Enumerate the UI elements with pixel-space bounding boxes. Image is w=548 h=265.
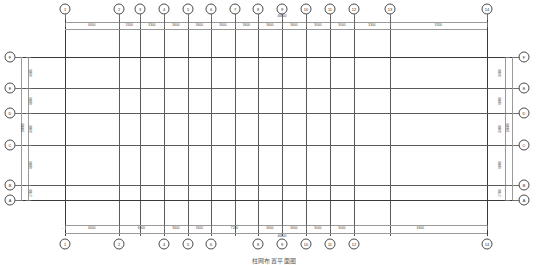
grid-bubble-bottom-10[interactable]: 10: [301, 239, 312, 250]
grid-bubble-right-F[interactable]: F: [519, 52, 530, 63]
grid-bubble-label: 10: [304, 242, 308, 246]
grid-line-vertical-4: [164, 14, 165, 236]
grid-bubble-label: 3: [139, 7, 141, 11]
grid-bubble-label: C: [9, 143, 12, 147]
dimension-top-overall: 46800: [277, 15, 286, 18]
grid-bubble-label: 10: [304, 7, 308, 11]
grid-bubble-top-12[interactable]: 12: [349, 4, 360, 15]
drawing-sheet: 1234567891011121314 124568910111214 FEDC…: [0, 0, 548, 265]
grid-bubble-label: 1: [64, 7, 66, 11]
dimension-tick: [390, 22, 391, 27]
dimension-tick: [258, 225, 259, 230]
grid-bubble-label: 5: [187, 7, 189, 11]
grid-bubble-label: 6: [210, 7, 212, 11]
grid-bubble-top-3[interactable]: 3: [135, 4, 146, 15]
grid-bubble-label: 11: [328, 242, 332, 246]
grid-bubble-top-9[interactable]: 9: [277, 4, 288, 15]
grid-bubble-left-A[interactable]: A: [5, 195, 16, 206]
grid-bubble-right-D[interactable]: D: [519, 108, 530, 119]
grid-bubble-right-C[interactable]: C: [519, 140, 530, 151]
dimension-tick: [487, 225, 488, 230]
grid-bubble-leader: [512, 113, 520, 114]
dimension-tick: [354, 22, 355, 27]
grid-bubble-leader: [164, 14, 165, 20]
grid-line-horizontal-D: [22, 113, 520, 114]
grid-bubble-top-6[interactable]: 6: [206, 4, 217, 15]
grid-line-horizontal-F: [22, 57, 520, 58]
grid-bubble-leader: [330, 14, 331, 20]
grid-bubble-leader: [487, 14, 488, 20]
dimension-top-7: 3600: [243, 24, 250, 27]
grid-bubble-bottom-9[interactable]: 9: [277, 239, 288, 250]
dimension-bottom-9: 3000: [338, 227, 345, 230]
dimension-right-2: 6000: [499, 97, 502, 104]
grid-bubble-left-C[interactable]: C: [5, 140, 16, 151]
dimension-left-2: 6000: [30, 97, 33, 104]
grid-bubble-right-A[interactable]: A: [519, 195, 530, 206]
grid-bubble-top-10[interactable]: 10: [301, 4, 312, 15]
grid-bubble-leader: [512, 57, 520, 58]
grid-bubble-left-B[interactable]: B: [5, 180, 16, 191]
grid-bubble-leader: [512, 88, 520, 89]
grid-bubble-bottom-12[interactable]: 12: [349, 239, 360, 250]
grid-bubble-bottom-4[interactable]: 4: [159, 239, 170, 250]
grid-bubble-bottom-14[interactable]: 14: [482, 239, 493, 250]
grid-bubble-bottom-8[interactable]: 8: [253, 239, 264, 250]
grid-bubble-label: F: [9, 55, 11, 59]
dimension-tick: [505, 185, 510, 186]
grid-bubble-bottom-6[interactable]: 6: [206, 239, 217, 250]
grid-bubble-left-D[interactable]: D: [5, 108, 16, 119]
grid-bubble-right-B[interactable]: B: [519, 180, 530, 191]
grid-bubble-leader: [258, 14, 259, 20]
dimension-tick: [282, 22, 283, 27]
grid-bubble-top-2[interactable]: 2: [114, 4, 125, 15]
grid-bubble-bottom-2[interactable]: 2: [114, 239, 125, 250]
grid-bubble-leader: [140, 14, 141, 20]
grid-bubble-left-F[interactable]: F: [5, 52, 16, 63]
grid-bubble-top-7[interactable]: 7: [230, 4, 241, 15]
dimension-bottom-10: 6600: [417, 227, 424, 230]
grid-bubble-bottom-5[interactable]: 5: [183, 239, 194, 250]
drawing-title: 柱网布置平面图: [252, 256, 297, 265]
dimension-tick: [26, 145, 31, 146]
grid-bubble-top-5[interactable]: 5: [183, 4, 194, 15]
dimension-tick: [164, 22, 165, 27]
grid-bubble-top-1[interactable]: 1: [60, 4, 71, 15]
grid-bubble-leader: [512, 145, 520, 146]
grid-line-vertical-5: [188, 14, 189, 236]
grid-bubble-label: D: [523, 111, 526, 115]
grid-bubble-top-4[interactable]: 4: [159, 4, 170, 15]
dimension-top-3: 3300: [148, 24, 155, 27]
dimension-top-13: 3300: [435, 24, 442, 27]
grid-bubble-label: 6: [210, 242, 212, 246]
dimension-right-5: 2700: [499, 189, 502, 196]
grid-bubble-top-8[interactable]: 8: [253, 4, 264, 15]
dimension-tick: [188, 225, 189, 230]
grid-bubble-bottom-11[interactable]: 11: [325, 239, 336, 250]
grid-bubble-label: 13: [388, 7, 392, 11]
grid-line-vertical-9: [282, 14, 283, 236]
grid-bubble-label: 2: [118, 242, 120, 246]
dimension-tick: [188, 22, 189, 27]
grid-bubble-top-14[interactable]: 14: [482, 4, 493, 15]
dimension-rail-top-lower: [65, 29, 487, 30]
grid-line-vertical-7: [235, 14, 236, 236]
grid-bubble-label: B: [523, 183, 526, 187]
grid-bubble-leader: [306, 14, 307, 20]
dimension-bottom-overall: 46800: [277, 235, 286, 238]
grid-bubble-top-11[interactable]: 11: [325, 4, 336, 15]
grid-line-horizontal-E: [22, 88, 520, 89]
grid-bubble-right-E[interactable]: E: [519, 83, 530, 94]
grid-bubble-top-13[interactable]: 13: [385, 4, 396, 15]
dimension-tick: [330, 22, 331, 27]
grid-line-horizontal-B: [22, 185, 520, 186]
grid-bubble-bottom-1[interactable]: 1: [60, 239, 71, 250]
dimension-tick: [306, 225, 307, 230]
grid-bubble-leader: [390, 14, 391, 20]
grid-line-horizontal-A: [22, 200, 520, 201]
dimension-tick: [26, 88, 31, 89]
dimension-left-5: 2700: [30, 189, 33, 196]
dimension-tick: [505, 145, 510, 146]
grid-line-vertical-12: [354, 14, 355, 236]
grid-bubble-left-E[interactable]: E: [5, 83, 16, 94]
